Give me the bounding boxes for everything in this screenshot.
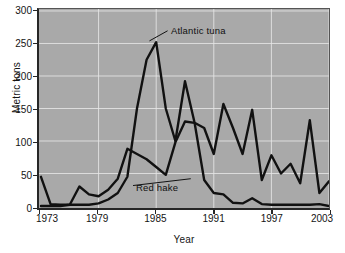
x-tick-mark	[330, 210, 332, 214]
chart-figure: Metric tons Year 050100150200250300 1973…	[0, 0, 345, 253]
series-label-red-hake: Red hake	[136, 182, 178, 193]
x-tick-label: 1997	[261, 213, 283, 224]
y-tick-label: 50	[0, 170, 32, 181]
x-tick-label: 2003	[311, 213, 333, 224]
x-tick-mark	[39, 210, 41, 214]
y-axis-title: Metric tons	[11, 28, 22, 148]
annotation-leader-lines	[39, 9, 329, 208]
x-tick-label: 1979	[86, 213, 108, 224]
y-tick-label: 0	[0, 203, 32, 214]
x-tick-mark	[97, 210, 99, 214]
x-tick-label: 1985	[144, 213, 166, 224]
series-label-atlantic-tuna: Atlantic tuna	[171, 25, 226, 36]
x-tick-mark	[271, 210, 273, 214]
x-tick-mark	[155, 210, 157, 214]
x-tick-label: 1973	[36, 213, 58, 224]
x-tick-mark	[213, 210, 215, 214]
y-tick-label: 300	[0, 5, 32, 16]
x-axis-title: Year	[37, 234, 331, 245]
x-tick-label: 1991	[202, 213, 224, 224]
plot-area	[37, 8, 330, 210]
